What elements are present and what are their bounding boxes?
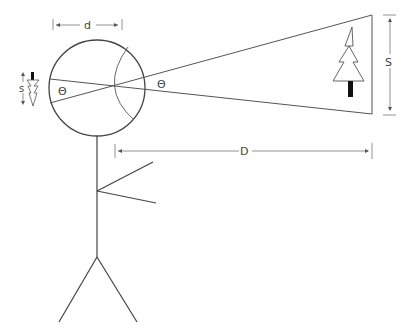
- lens-arc: [114, 47, 134, 120]
- D-label: D: [240, 145, 248, 158]
- d-label: d: [84, 19, 91, 32]
- lower-arm: [97, 191, 156, 203]
- visual-angle-diagram: Θ Θ d s S: [0, 0, 416, 334]
- right-leg: [97, 257, 137, 322]
- upper-arm: [97, 162, 153, 191]
- theta-inside-label: Θ: [58, 85, 67, 98]
- stick-figure: [59, 136, 156, 322]
- inverted-tree-icon: [27, 72, 39, 106]
- tree-icon: [333, 27, 370, 97]
- lower-ray: [50, 79, 372, 114]
- theta-outside-label: Θ: [157, 78, 166, 91]
- upper-ray: [50, 15, 372, 103]
- s-label: s: [19, 83, 24, 94]
- S-label: S: [385, 56, 392, 69]
- left-leg: [59, 257, 97, 322]
